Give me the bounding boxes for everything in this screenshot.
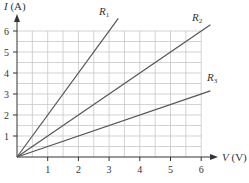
y-tick-label: 1	[4, 131, 9, 142]
x-axis-title: V (V)	[222, 151, 247, 164]
x-axis-title-unit: (V)	[229, 151, 247, 164]
x-tick-label: 2	[76, 164, 81, 175]
series-label-r1: R1	[98, 5, 110, 19]
series-label-r2: R2	[191, 11, 203, 25]
x-tick-label: 3	[107, 164, 112, 175]
y-tick-label: 2	[4, 110, 9, 121]
y-axis-title: I (A)	[3, 0, 26, 13]
y-tick-label: 5	[4, 47, 9, 58]
tick-labels: 123456123456	[4, 26, 204, 176]
x-tick-label: 1	[45, 164, 50, 175]
series-label-r3: R3	[206, 71, 218, 85]
r2-sub: 2	[199, 17, 203, 25]
y-axis-arrow-icon	[14, 14, 20, 22]
y-tick-label: 3	[4, 89, 9, 100]
chart: 123456123456 I (A) V (V) R1 R2 R3	[0, 0, 249, 183]
series-line-r2	[17, 25, 210, 157]
x-tick-label: 4	[137, 164, 142, 175]
x-tick-label: 5	[168, 164, 173, 175]
series-line-r3	[17, 91, 210, 157]
x-axis-arrow-icon	[210, 154, 218, 160]
y-tick-label: 6	[4, 26, 9, 37]
y-axis-title-unit: (A)	[8, 0, 26, 13]
x-tick-label: 6	[199, 164, 204, 175]
y-tick-label: 4	[4, 68, 9, 79]
r1-sub: 1	[106, 11, 110, 19]
r3-sub: 3	[214, 77, 218, 85]
